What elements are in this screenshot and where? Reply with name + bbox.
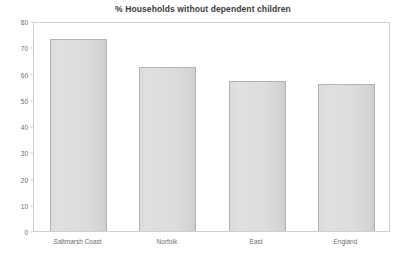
bar-chart: % Households without dependent children … — [0, 0, 406, 267]
y-axis-tick-label: 0 — [24, 229, 28, 236]
plot-inner — [34, 23, 389, 231]
bar[interactable] — [50, 39, 107, 231]
bar-slot — [318, 23, 375, 231]
bar[interactable] — [139, 67, 196, 231]
bar-slot — [139, 23, 196, 231]
x-axis-tick-label: East — [250, 238, 263, 245]
y-axis-tick-label: 60 — [21, 71, 28, 78]
y-axis-tick-label: 70 — [21, 45, 28, 52]
bar-slot — [50, 23, 107, 231]
y-axis-tick-label: 40 — [21, 124, 28, 131]
y-axis-tick-label: 30 — [21, 150, 28, 157]
x-axis-tick-label: England — [333, 238, 357, 245]
y-axis-tick-label: 10 — [21, 202, 28, 209]
bar-slot — [229, 23, 286, 231]
y-axis-tick-label: 50 — [21, 97, 28, 104]
y-axis-tick-label: 80 — [21, 19, 28, 26]
bar[interactable] — [318, 84, 375, 231]
chart-title: % Households without dependent children — [0, 4, 406, 14]
x-axis: Saltmarsh CoastNorfolkEastEngland — [33, 234, 390, 252]
y-axis: 01020304050607080 — [0, 22, 33, 232]
bar[interactable] — [229, 81, 286, 231]
x-axis-tick-label: Saltmarsh Coast — [54, 238, 102, 245]
x-axis-tick-label: Norfolk — [157, 238, 178, 245]
y-axis-tick-label: 20 — [21, 176, 28, 183]
plot-area — [33, 22, 390, 232]
